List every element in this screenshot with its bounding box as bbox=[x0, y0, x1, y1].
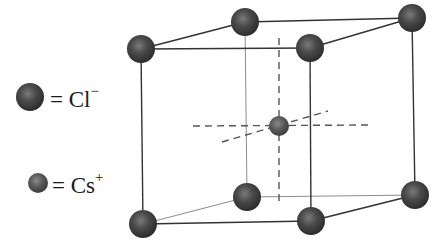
cl-atom-front-top-left bbox=[127, 35, 155, 63]
legend-cl-label: = Cl− bbox=[50, 86, 99, 111]
legend-cs-label: = Cs+ bbox=[52, 172, 103, 197]
legend-cs-text: = Cs bbox=[52, 173, 95, 198]
cl-atom-back-bottom-right bbox=[401, 181, 429, 209]
edge-front-left-vertical bbox=[141, 49, 143, 224]
legend-cs-charge: + bbox=[95, 169, 103, 185]
cl-atom-front-bottom-right bbox=[297, 207, 325, 235]
cl-atom-back-top-right bbox=[398, 4, 426, 32]
legend-cs-sphere-icon bbox=[28, 173, 48, 193]
edge-top-right-depth bbox=[310, 18, 412, 48]
cl-atom-back-bottom-left bbox=[233, 183, 261, 211]
edge-front-right-vertical bbox=[310, 48, 311, 221]
edge-bottom-right-depth bbox=[311, 195, 415, 221]
edge-back-right-vertical bbox=[412, 18, 415, 195]
cscl-unit-cell-diagram bbox=[0, 0, 444, 245]
legend-cl-sphere-icon bbox=[16, 83, 44, 111]
cl-atom-back-top-left bbox=[231, 8, 259, 36]
edge-bottom-left-depth bbox=[143, 197, 247, 224]
edge-top-front bbox=[141, 48, 310, 49]
legend-cl-charge: − bbox=[90, 83, 98, 99]
edge-bottom-front bbox=[143, 221, 311, 224]
cl-atom-front-bottom-left bbox=[129, 210, 157, 238]
legend-cl-text: = Cl bbox=[50, 87, 90, 112]
cl-atom-front-top-right bbox=[296, 34, 324, 62]
edge-top-left-depth bbox=[141, 22, 245, 49]
edge-top-back bbox=[245, 18, 412, 22]
center-cs-atom bbox=[269, 116, 289, 136]
edge-back-bottom bbox=[247, 195, 415, 197]
